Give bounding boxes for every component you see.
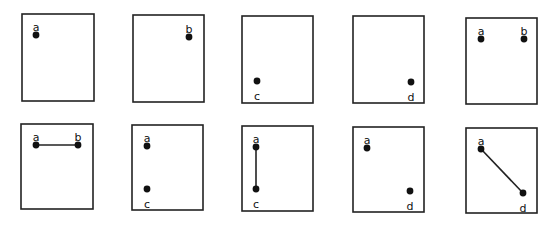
point-label-a: a — [33, 21, 40, 34]
point-label-a: a — [478, 135, 485, 148]
panel-4: d — [353, 16, 424, 104]
panel-10: ad — [466, 128, 537, 215]
panel-frame — [133, 15, 204, 102]
point-label-a: a — [33, 131, 40, 144]
point-label-c: c — [144, 198, 150, 211]
point-label-a: a — [253, 133, 260, 146]
panel-8: ac — [242, 126, 313, 211]
panel-3: c — [242, 16, 313, 103]
point-label-d: d — [520, 202, 527, 215]
point-d — [520, 190, 527, 197]
diagram-canvas: abcdababacacadad — [0, 0, 559, 234]
point-label-b: b — [75, 131, 82, 144]
panel-5: ab — [466, 18, 537, 104]
point-c — [253, 186, 260, 193]
point-label-d: d — [407, 200, 414, 213]
panel-1: a — [22, 14, 94, 101]
point-label-c: c — [254, 90, 260, 103]
point-label-a: a — [364, 134, 371, 147]
point-c — [144, 186, 151, 193]
point-label-b: b — [186, 23, 193, 36]
point-label-b: b — [521, 25, 528, 38]
panel-7: ac — [132, 125, 203, 211]
point-label-a: a — [478, 25, 485, 38]
point-label-c: c — [253, 198, 259, 211]
point-d — [407, 188, 414, 195]
point-label-d: d — [408, 91, 415, 104]
point-c — [254, 78, 261, 85]
panel-6: ab — [21, 124, 93, 209]
point-d — [408, 79, 415, 86]
point-label-a: a — [144, 132, 151, 145]
panel-9: ad — [353, 127, 424, 213]
panel-frame — [242, 16, 313, 103]
panel-frame — [353, 16, 424, 103]
panel-2: b — [133, 15, 204, 102]
